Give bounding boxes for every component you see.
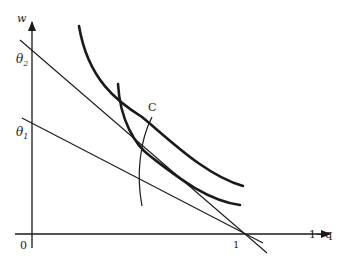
lower-indifference-curve: [118, 84, 240, 205]
upper-budget-line: [20, 40, 267, 253]
theta2-label: θ2: [16, 52, 28, 68]
theta1-label: θ1: [16, 125, 28, 141]
origin-label: 0: [20, 239, 27, 252]
x-axis-label-text: 1−q: [309, 228, 332, 241]
theta1-sub: 1: [23, 132, 28, 141]
diagram-canvas: w 1−q 0 1 θ2 θ1 C: [0, 0, 344, 263]
y-axis-label: w: [17, 12, 27, 25]
theta2-sub: 2: [22, 59, 28, 68]
x-tick-1-label: 1: [233, 239, 239, 250]
x-axis-label: 1−q: [309, 228, 332, 241]
c-locus-curve: [139, 117, 152, 206]
curve-c-label: C: [148, 101, 156, 114]
